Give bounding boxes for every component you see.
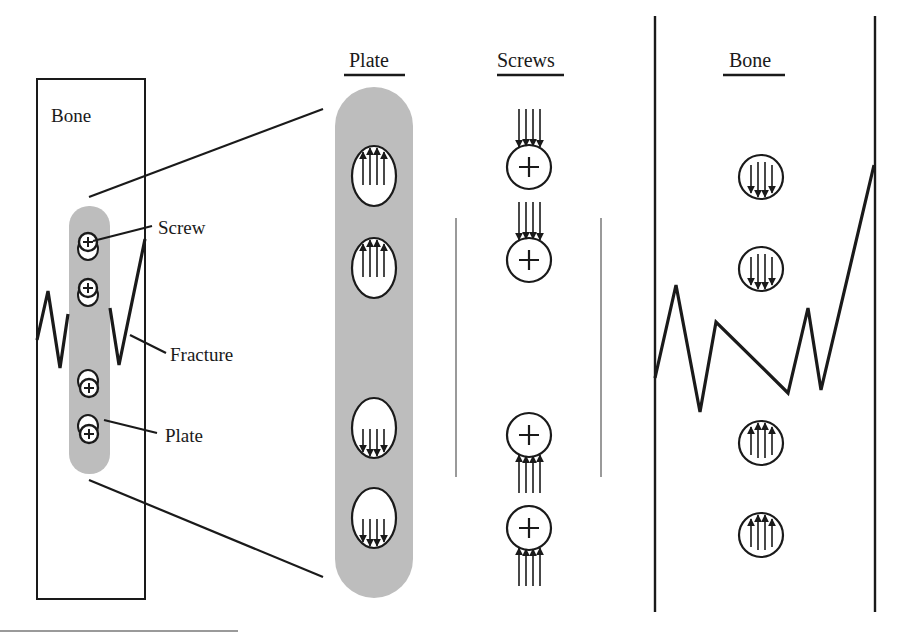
bone-header: Bone xyxy=(729,49,771,71)
arrow-up-icon xyxy=(519,455,540,493)
plate-hole-1 xyxy=(352,146,396,206)
arrow-down-icon xyxy=(519,202,540,240)
fracture-callout-label: Fracture xyxy=(170,344,233,365)
screws-column: Screws xyxy=(497,49,564,586)
fracture-fixation-diagram: Bone Screw Fr xyxy=(0,0,905,636)
screw-small-2 xyxy=(78,279,98,306)
screw-3 xyxy=(507,413,551,493)
plate-hole-4 xyxy=(352,488,396,548)
bone-hole-4 xyxy=(739,513,783,557)
plate-column: Plate xyxy=(335,49,413,598)
bone-hole-3 xyxy=(739,421,783,465)
screw-small-1 xyxy=(78,233,98,260)
plate-callout-label: Plate xyxy=(165,425,203,446)
arrow-up-icon xyxy=(519,548,540,586)
screw-4 xyxy=(507,506,551,586)
bone-hole-1 xyxy=(739,155,783,199)
bone-label: Bone xyxy=(51,105,91,126)
screw-2 xyxy=(507,202,551,282)
screw-callout-label: Screw xyxy=(158,217,206,238)
bone-hole-2 xyxy=(739,247,783,291)
arrow-down-icon xyxy=(519,109,540,147)
screw-1 xyxy=(507,109,551,189)
overview-panel: Bone Screw Fr xyxy=(37,79,323,599)
bone-column: Bone xyxy=(655,16,875,612)
plate-hole-3 xyxy=(352,398,396,458)
screws-header: Screws xyxy=(497,49,555,71)
plate-header: Plate xyxy=(349,49,389,71)
plate-hole-2 xyxy=(352,238,396,298)
screw-small-4 xyxy=(78,415,98,443)
screw-small-3 xyxy=(78,370,98,397)
